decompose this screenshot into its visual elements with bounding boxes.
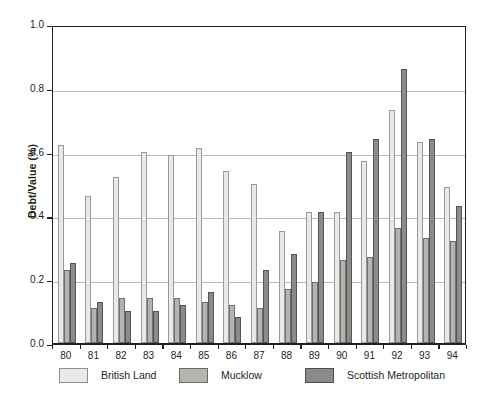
x-tick-mark: [356, 345, 357, 349]
y-axis-tick: 1.0: [0, 26, 52, 27]
x-tick-mark: [135, 345, 136, 349]
legend-swatch: [179, 368, 208, 383]
legend-item-2[interactable]: Scottish Metropolitan: [305, 364, 445, 386]
x-tick-mark: [218, 345, 219, 349]
bar: [291, 254, 297, 343]
x-tick-label: 82: [107, 350, 135, 361]
x-tick-mark: [190, 345, 191, 349]
x-tick-mark: [328, 345, 329, 349]
x-tick-mark: [80, 345, 81, 349]
bar-chart-figure: Debt/Value (%) 0.00.20.40.60.81.0 808182…: [0, 0, 484, 409]
x-tick-label: 91: [355, 350, 383, 361]
x-tick-label: 80: [52, 350, 80, 361]
bar: [346, 152, 352, 343]
x-tick-label: 85: [190, 350, 218, 361]
y-tick-label: 1.0: [30, 19, 44, 30]
x-tick-mark: [411, 345, 412, 349]
x-tick-label: 81: [79, 350, 107, 361]
y-tick-label: 0.2: [30, 274, 44, 285]
x-tick-label: 90: [328, 350, 356, 361]
x-tick-label: 88: [273, 350, 301, 361]
x-tick-mark: [300, 345, 301, 349]
y-tick-label: 0.6: [30, 147, 44, 158]
legend-label: Scottish Metropolitan: [347, 369, 445, 381]
y-axis-tick: 0.0: [0, 345, 52, 346]
x-tick-mark: [52, 345, 53, 349]
legend-label: Mucklow: [221, 369, 262, 381]
x-tick-label: 94: [438, 350, 466, 361]
bar: [235, 317, 241, 343]
bar: [429, 139, 435, 343]
bar: [70, 263, 76, 343]
bar: [97, 302, 103, 343]
y-axis-tick: 0.6: [0, 154, 52, 155]
bar: [401, 69, 407, 343]
bar: [153, 311, 159, 343]
x-tick-label: 87: [245, 350, 273, 361]
x-tick-mark: [273, 345, 274, 349]
x-tick-mark: [438, 345, 439, 349]
x-tick-label: 93: [411, 350, 439, 361]
y-axis-tick: 0.2: [0, 281, 52, 282]
y-tick-label: 0.4: [30, 210, 44, 221]
x-tick-mark: [466, 345, 467, 349]
y-axis-tick: 0.4: [0, 217, 52, 218]
legend-label: British Land: [101, 369, 156, 381]
legend-swatch: [305, 368, 334, 383]
plot-area: [52, 26, 466, 345]
x-tick-label: 86: [217, 350, 245, 361]
x-tick-mark: [383, 345, 384, 349]
bar: [318, 212, 324, 343]
x-tick-label: 92: [383, 350, 411, 361]
x-tick-mark: [245, 345, 246, 349]
bar: [208, 292, 214, 343]
chart-legend: British LandMucklowScottish Metropolitan: [52, 364, 472, 390]
x-tick-label: 89: [300, 350, 328, 361]
x-tick-mark: [162, 345, 163, 349]
legend-item-1[interactable]: Mucklow: [179, 364, 262, 386]
y-tick-label: 0.0: [30, 338, 44, 349]
y-tick-label: 0.8: [30, 83, 44, 94]
legend-swatch: [59, 368, 88, 383]
bar: [373, 139, 379, 343]
bar: [180, 305, 186, 343]
y-axis-title: Debt/Value (%): [26, 101, 38, 261]
bar: [125, 311, 131, 343]
x-tick-mark: [107, 345, 108, 349]
bar: [456, 206, 462, 343]
y-axis-tick: 0.8: [0, 90, 52, 91]
legend-item-0[interactable]: British Land: [59, 364, 156, 386]
x-tick-label: 84: [162, 350, 190, 361]
bar: [263, 270, 269, 343]
x-tick-label: 83: [135, 350, 163, 361]
